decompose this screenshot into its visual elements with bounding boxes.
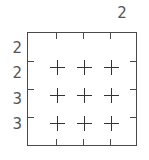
plus-marker [50,116,65,131]
tick-left-2 [28,117,34,118]
tick-top-1 [83,33,84,39]
plus-marker [77,60,92,75]
plus-marker [104,60,119,75]
tick-bottom-0 [56,139,57,145]
tick-bottom-1 [83,139,84,145]
figure-canvas: 2 2 2 3 3 [0,0,149,160]
tick-top-0 [56,33,57,39]
y-tick-label-1: 2 [0,66,22,81]
tick-right-0 [130,61,136,62]
plot-frame [27,32,137,146]
tick-top-2 [110,33,111,39]
tick-bottom-2 [110,139,111,145]
plus-marker [104,88,119,103]
tick-left-1 [28,89,34,90]
plus-marker [104,116,119,131]
plus-marker [77,116,92,131]
tick-right-1 [130,89,136,90]
tick-left-0 [28,61,34,62]
plus-marker [77,88,92,103]
tick-right-2 [130,117,136,118]
y-tick-label-2: 3 [0,92,22,107]
plus-marker [50,88,65,103]
plus-marker [50,60,65,75]
y-tick-label-3: 3 [0,117,22,132]
top-axis-label-0: 2 [112,6,132,21]
y-tick-label-0: 2 [0,41,22,56]
